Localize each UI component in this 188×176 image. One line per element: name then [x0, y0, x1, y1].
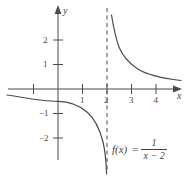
formula-left-hand-side: f(x) [112, 144, 127, 155]
curve-right-branch [112, 15, 182, 81]
y-tick-label-2: 2 [43, 36, 48, 45]
formula-numerator: 1 [150, 138, 159, 149]
y-axis-label: y [63, 6, 67, 16]
formula-fraction: 1 x − 2 [141, 138, 166, 161]
x-tick-label-3: 3 [129, 96, 134, 105]
function-formula-annotation: f(x) = 1 x − 2 [112, 138, 167, 161]
y-axis [55, 5, 62, 160]
y-tick-label-neg2: −2 [39, 134, 49, 143]
x-tick-label-1: 1 [80, 96, 85, 105]
function-graph-figure: 1 2 3 4 2 1 −1 −2 y x f(x) = 1 x − 2 [0, 0, 188, 176]
curve-left-branch [7, 95, 107, 174]
y-tick-label-neg1: −1 [39, 109, 49, 118]
formula-denominator: x − 2 [141, 151, 166, 162]
x-axis-label: x [177, 91, 181, 101]
y-tick-label-1: 1 [43, 60, 48, 69]
x-tick-label-2: 2 [104, 96, 109, 105]
formula-equals-sign: = [132, 144, 138, 155]
x-tick-label-4: 4 [154, 96, 159, 105]
